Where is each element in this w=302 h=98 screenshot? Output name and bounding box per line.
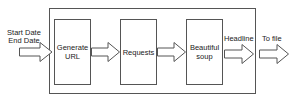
stage-requests: Requests — [120, 19, 157, 85]
stage-beautiful-soup-line2: soup — [190, 52, 219, 61]
block-arrow-right-icon — [19, 42, 53, 62]
stage-beautiful-soup: Beautiful soup — [186, 19, 223, 85]
output-label-to-file: To file — [262, 35, 282, 43]
stage-requests-line1: Requests — [123, 48, 155, 57]
block-arrow-right-icon — [259, 44, 289, 64]
stage-generate-url-line1: Generate — [57, 43, 88, 52]
stage-generate-url-line2: URL — [57, 52, 88, 61]
output-label-headline: Headline — [224, 35, 254, 43]
stage-beautiful-soup-line1: Beautiful — [190, 43, 219, 52]
block-arrow-right-icon — [224, 44, 254, 64]
block-arrow-right-icon — [91, 42, 120, 62]
stage-generate-url: Generate URL — [54, 19, 91, 85]
block-arrow-right-icon — [157, 42, 186, 62]
